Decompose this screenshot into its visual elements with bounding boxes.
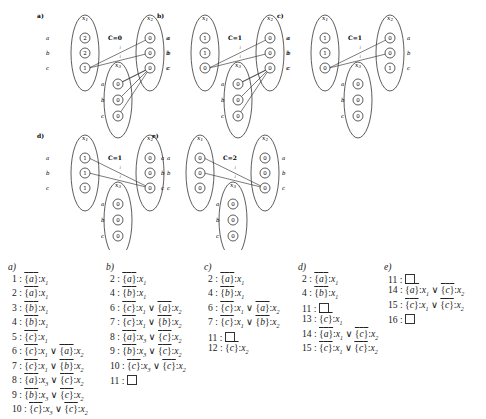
panel-e: e)C=2iix10a0b0cx20a0b0cx30a0b0c <box>152 132 286 250</box>
negated-value-set: {a} <box>24 287 38 298</box>
value-label: a <box>161 155 164 161</box>
negated-value-set: {c} <box>354 342 367 353</box>
negated-value-set: {b} <box>158 316 172 327</box>
clause-row: 8 : {a}:x3 ∨ {c}:x2 <box>8 375 88 390</box>
panel-label: b) <box>157 12 164 19</box>
negated-value-set: {c} <box>158 345 171 356</box>
negated-value-set: {c} <box>127 360 140 371</box>
value-cost: 0 <box>116 113 120 119</box>
negated-value-set: {c} <box>122 302 135 313</box>
value-label: a <box>286 35 289 41</box>
value-cost: 0 <box>268 50 272 56</box>
value-cost: 0 <box>198 170 202 176</box>
value-label: a <box>282 155 285 161</box>
clause-row: 7 : {c}:x1 ∨ {b}:x2 <box>8 361 88 376</box>
value-label: b <box>341 97 345 103</box>
negated-value-set: {a} <box>220 273 234 284</box>
value-label: c <box>221 113 224 119</box>
clause-column-e: e)11 : 14 : {a}:x1 ∨ {c}:x215 : {c}:x1 ∨… <box>384 262 464 326</box>
value-cost: 0 <box>116 217 120 223</box>
value-label: c <box>407 65 410 71</box>
value-cost: 2 <box>83 35 87 41</box>
value-label: c <box>101 233 104 239</box>
cost-label: C=0 <box>108 34 122 41</box>
value-label: b <box>286 50 290 56</box>
negated-value-set: {a} <box>319 328 333 339</box>
clause-column-a: a)1 : {a}:x12 : {a}:x13 : {b}:x14 : {b}:… <box>8 262 88 419</box>
negated-value-set: {a} <box>256 302 270 313</box>
negated-value-set: {c} <box>24 345 37 356</box>
negated-value-set: {b} <box>220 287 234 298</box>
value-cost: 0 <box>148 170 152 176</box>
value-label: c <box>341 113 344 119</box>
negated-value-set: {c} <box>220 302 233 313</box>
negated-value-set: {c} <box>162 360 175 371</box>
value-label: b <box>101 97 105 103</box>
constraint-edge <box>118 68 150 116</box>
negated-value-set: {b} <box>24 302 38 313</box>
constraint-edge <box>238 68 270 116</box>
value-label: a <box>101 201 104 207</box>
value-cost: 0 <box>356 113 360 119</box>
value-label: b <box>167 170 171 176</box>
negated-value-set: {c} <box>440 299 453 310</box>
clause-column-c: c)2 : {a}:x14 : {b}:x16 : {c}:x1 ∨ {a}:x… <box>204 262 279 358</box>
clause-row: 4 : {b}:x1 <box>8 317 88 332</box>
value-label: b <box>101 217 105 223</box>
value-label: b <box>46 170 50 176</box>
value-label: a <box>46 35 49 41</box>
clause-row: 6 : {c}:x1 ∨ {a}:x2 <box>204 303 279 318</box>
value-cost: 0 <box>268 35 272 41</box>
clause-row: 6 : {c}:x1 ∨ {a}:x2 <box>8 346 88 361</box>
clause-row: 12 : {c}:x2 <box>204 343 279 358</box>
negated-value-set: {c} <box>24 360 37 371</box>
clause-column-b: b)2 : {a}:x14 : {b}:x16 : {c}:x1 ∨ {a}:x… <box>106 262 186 387</box>
value-cost: 0 <box>116 97 120 103</box>
value-cost: 0 <box>116 233 120 239</box>
panel-b: b)C=1iix11a1b0cx20a0b0cx30a0b0c <box>157 12 291 138</box>
negated-value-set: {c} <box>319 342 332 353</box>
negated-value-set: {c} <box>60 374 73 385</box>
negated-value-set: {c} <box>158 331 171 342</box>
value-cost: 0 <box>148 35 152 41</box>
clause-row: 15 : {c}:x1 ∨ {c}:x2 <box>298 343 378 358</box>
clause-row: 4 : {b}:x1 <box>298 288 378 303</box>
value-cost: 2 <box>83 50 87 56</box>
value-label: c <box>286 65 289 71</box>
panel-c: c)C=1iix11a1b0cx20a0b1cx30a0b0c <box>277 12 411 138</box>
cost-label: C=1 <box>108 154 122 161</box>
value-label: a <box>341 81 344 87</box>
value-cost: 1 <box>388 65 392 71</box>
negated-value-set: {c} <box>64 403 77 414</box>
negated-value-set: {a} <box>314 273 328 284</box>
value-cost: 0 <box>116 81 120 87</box>
value-label: c <box>282 185 285 191</box>
negated-value-set: {b} <box>24 389 38 400</box>
value-label: a <box>166 35 169 41</box>
cost-label: C=1 <box>228 34 242 41</box>
clause-row: 4 : {b}:x1 <box>106 288 186 303</box>
empty-clause-box <box>127 375 137 385</box>
empty-clause-box <box>319 303 329 313</box>
column-heading: a) <box>8 262 88 273</box>
negated-value-set: {a} <box>122 331 136 342</box>
value-cost: 0 <box>263 170 267 176</box>
clause-column-d: d)2 : {a}:x14 : {b}:x111 : 13 : {c}:x114… <box>298 262 378 358</box>
value-cost: 0 <box>236 97 240 103</box>
svg-text:i: i <box>360 45 362 50</box>
svg-text:i: i <box>120 45 122 50</box>
clause-row: 2 : {a}:x1 <box>298 274 378 289</box>
value-cost: 1 <box>83 170 87 176</box>
negated-value-set: {a} <box>158 302 172 313</box>
panel-label: d) <box>37 132 44 139</box>
value-cost: 1 <box>83 155 87 161</box>
negated-value-set: {a} <box>24 273 38 284</box>
value-label: c <box>166 65 169 71</box>
svg-text:i: i <box>240 45 242 50</box>
svg-text:i: i <box>360 54 362 59</box>
svg-text:i: i <box>120 165 122 170</box>
panel-label: e) <box>152 132 159 139</box>
clause-row: 16 : <box>384 314 464 326</box>
clause-row: 3 : {b}:x1 <box>8 303 88 318</box>
value-cost: 1 <box>323 50 327 56</box>
